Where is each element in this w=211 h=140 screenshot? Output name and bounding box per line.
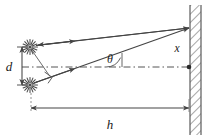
label-separation-d: d xyxy=(6,59,13,74)
path-difference-construction xyxy=(31,49,50,77)
screen-wall xyxy=(190,5,201,135)
label-distance-h: h xyxy=(107,117,114,132)
dimension-h xyxy=(31,93,189,112)
label-angle-theta: θ xyxy=(107,52,113,66)
physics-figure: d θ x h xyxy=(0,0,211,140)
dimension-d xyxy=(17,47,27,85)
ray-diagram-svg: d θ x h xyxy=(0,0,211,140)
label-screen-offset-x: x xyxy=(173,42,180,54)
